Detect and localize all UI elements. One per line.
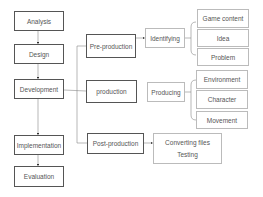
item-game-content: Game content <box>197 9 249 28</box>
stage-post-production: Post-production <box>87 133 144 154</box>
phase-label: Analysis <box>27 18 51 25</box>
phase-label: Evaluation <box>24 173 54 180</box>
item-label: Game content <box>203 15 244 22</box>
item-label: Environment <box>204 76 241 83</box>
item-label: Movement <box>207 117 237 124</box>
action-label: Producing <box>151 89 180 96</box>
item-label: Character <box>208 96 237 103</box>
task-converting-files: Converting files <box>165 137 210 149</box>
stage-label: production <box>96 88 126 95</box>
post-production-tasks: Converting files Testing <box>153 133 222 164</box>
phase-label: Implementation <box>17 142 61 149</box>
action-label: Identifying <box>150 35 180 42</box>
action-producing: Producing <box>147 82 185 102</box>
item-problem: Problem <box>197 48 249 66</box>
phase-design: Design <box>14 44 64 64</box>
stage-production: production <box>86 80 137 103</box>
item-label: Idea <box>217 35 230 42</box>
stage-label: Pre-production <box>90 43 133 50</box>
phase-implementation: Implementation <box>14 135 64 155</box>
item-movement: Movement <box>196 111 248 129</box>
stage-pre-production: Pre-production <box>86 34 136 58</box>
stage-label: Post-production <box>93 140 139 147</box>
task-testing: Testing <box>177 149 198 161</box>
phase-analysis: Analysis <box>14 11 64 31</box>
phase-evaluation: Evaluation <box>14 166 64 187</box>
phase-label: Design <box>29 51 49 58</box>
action-identifying: Identifying <box>145 28 185 48</box>
item-character: Character <box>196 90 248 109</box>
item-idea: Idea <box>197 29 249 47</box>
phase-label: Development <box>20 86 58 93</box>
item-environment: Environment <box>196 70 248 89</box>
phase-development: Development <box>14 79 64 99</box>
item-label: Problem <box>211 54 235 61</box>
